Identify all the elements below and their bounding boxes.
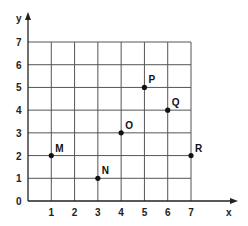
x-tick-label: 1 bbox=[49, 207, 55, 218]
y-tick-label: 3 bbox=[16, 128, 22, 139]
point-label: R bbox=[195, 143, 203, 154]
y-axis-label: y bbox=[16, 13, 22, 24]
point-label: P bbox=[148, 74, 155, 85]
y-tick-label: 7 bbox=[16, 37, 22, 48]
grid-lines bbox=[28, 42, 191, 201]
y-tick-label: 5 bbox=[16, 82, 22, 93]
point-label: M bbox=[55, 143, 63, 154]
y-tick-label: 2 bbox=[16, 151, 22, 162]
point-label: O bbox=[125, 120, 133, 131]
point-marker-icon bbox=[95, 176, 100, 181]
x-tick-label: 5 bbox=[142, 207, 148, 218]
data-points: MNOPQR bbox=[49, 74, 203, 180]
point-marker-icon bbox=[188, 153, 193, 158]
point-label: Q bbox=[172, 97, 180, 108]
y-axis-arrow-icon bbox=[25, 12, 31, 20]
y-tick-label: 1 bbox=[16, 173, 22, 184]
x-axis-label: x bbox=[226, 207, 232, 218]
point-label: N bbox=[102, 165, 109, 176]
point-marker-icon bbox=[119, 130, 124, 135]
y-tick-label: 6 bbox=[16, 60, 22, 71]
point-marker-icon bbox=[49, 153, 54, 158]
coordinate-grid: x y 0 12345671234567 MNOPQR bbox=[0, 0, 248, 226]
origin-label: 0 bbox=[16, 196, 22, 207]
x-tick-label: 4 bbox=[118, 207, 124, 218]
y-tick-label: 4 bbox=[16, 105, 22, 116]
x-tick-label: 6 bbox=[165, 207, 171, 218]
x-tick-label: 2 bbox=[72, 207, 78, 218]
point-marker-icon bbox=[142, 85, 147, 90]
x-tick-label: 3 bbox=[95, 207, 101, 218]
x-tick-label: 7 bbox=[188, 207, 194, 218]
x-axis-arrow-icon bbox=[230, 198, 238, 204]
axes: x y 0 bbox=[16, 12, 238, 218]
point-marker-icon bbox=[165, 108, 170, 113]
